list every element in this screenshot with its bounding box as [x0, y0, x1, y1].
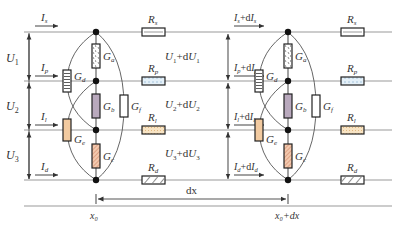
label-Gb: Gb [103, 100, 115, 114]
node-p-right [285, 78, 291, 84]
conductance-Gc-right [284, 144, 292, 168]
current-label-Il: Il [40, 110, 47, 124]
label-Gf-right: Gf [323, 100, 334, 114]
current-label-Is: Is [40, 11, 48, 25]
conductance-Ge-right [255, 119, 263, 141]
node-l-left [93, 127, 99, 133]
resistor-Rp-right [341, 77, 364, 85]
label-Ga-right: Ga [295, 50, 307, 64]
label-Gd-right: Gd [266, 70, 278, 84]
conductance-Gb-right [284, 94, 292, 118]
label-Rp-right: Rp [346, 62, 358, 76]
label-Ge-right: Ge [266, 133, 277, 147]
conductance-Gb [92, 94, 100, 118]
node-d-right [285, 177, 291, 183]
dx-label: dx [186, 184, 198, 196]
label-Gb-right: Gb [295, 100, 307, 114]
right-section: Is+dIs Ip+dIp Il+dIl Id+dId Ga Gb Gc Gd … [233, 12, 364, 184]
label-Gf: Gf [131, 100, 142, 114]
label-Gd: Gd [74, 70, 86, 84]
current-label-Id: Id [40, 160, 49, 174]
left-section: Is Ip Il Id Ga Gb Gc Gd Ge Gf [35, 11, 165, 184]
dx-dimension: dx [96, 184, 288, 204]
label-Rl-right: Rl [346, 111, 356, 125]
label-Rs: Rs [147, 13, 158, 27]
position-label-x0-dx: x₀+dx [274, 210, 300, 221]
label-Rl: Rl [147, 111, 157, 125]
node-s-left [93, 29, 99, 35]
label-Gc: Gc [103, 150, 115, 164]
voltage-label-U2-dU2: U2+dU2 [165, 98, 200, 113]
label-Ga: Ga [103, 50, 115, 64]
conductance-Ge [63, 119, 71, 141]
node-d-left [93, 177, 99, 183]
conductance-Gc [92, 144, 100, 168]
current-label-Ip: Ip [40, 61, 49, 75]
label-Rd: Rd [147, 161, 159, 175]
label-Rp: Rp [147, 62, 159, 76]
node-p-left [93, 78, 99, 84]
label-Rs-right: Rs [346, 13, 357, 27]
label-Rd-right: Rd [346, 161, 358, 175]
conductance-Gf [120, 95, 128, 117]
label-Ge: Ge [74, 133, 85, 147]
current-label-Is-dIs: Is+dIs [233, 12, 257, 24]
node-l-right [285, 127, 291, 133]
resistor-Rl-right [341, 126, 364, 134]
resistor-Rl [142, 126, 165, 134]
voltage-label-U3: U3 [6, 148, 19, 164]
node-s-right [285, 29, 291, 35]
voltage-label-U1-dU1: U1+dU1 [165, 50, 200, 65]
resistor-Rp [142, 77, 165, 85]
voltage-label-U1: U1 [6, 51, 19, 67]
circuit-diagram: U1 U2 U3 U1+dU1 U2+dU2 U3+dU3 Is Ip Il I… [0, 0, 406, 225]
label-Gc-right: Gc [295, 150, 307, 164]
current-label-Il-dIl: Il+dIl [233, 111, 255, 123]
position-label-x0: x₀ [89, 210, 98, 221]
current-label-Id-dId: Id+dId [233, 161, 259, 173]
conductance-Gf-right [312, 95, 320, 117]
voltage-label-U2: U2 [6, 99, 19, 115]
voltage-label-U3-dU3: U3+dU3 [165, 147, 200, 162]
conductor-lines [24, 32, 392, 206]
